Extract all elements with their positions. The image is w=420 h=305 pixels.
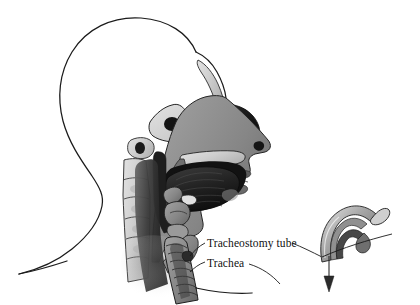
label-tracheostomy-tube: Tracheostomy tube <box>207 237 297 250</box>
label-trachea: Trachea <box>207 257 244 269</box>
tracheostomy-figure: Tracheostomy tube Trachea <box>0 0 420 305</box>
spinal-canal-opening <box>135 142 145 154</box>
anatomy-illustration: Tracheostomy tube Trachea <box>0 0 420 305</box>
stoma-site <box>182 251 193 261</box>
